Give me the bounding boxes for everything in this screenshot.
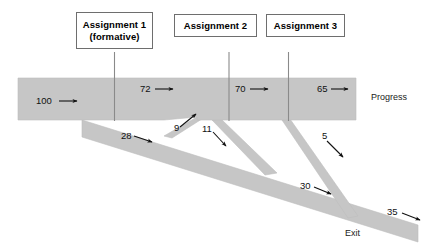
value-after-a2-70: 70: [235, 84, 246, 94]
value-intake-100: 100: [36, 96, 52, 106]
value-dropout-28: 28: [121, 131, 132, 141]
band-progress: [18, 78, 356, 120]
value-dropout-5: 5: [322, 131, 327, 141]
arrow-dropout-5: [327, 141, 343, 157]
value-after-a1-72: 72: [140, 84, 151, 94]
value-dropout-11: 11: [202, 124, 212, 134]
flow-bands: [0, 0, 430, 251]
assignment-2-box[interactable]: Assignment 2: [174, 14, 257, 37]
assignment-3-line1: Assignment 3: [274, 20, 338, 32]
arrow-exit-total-35: [402, 213, 420, 220]
band-exit-stream: [82, 120, 418, 242]
arrow-dropout-11: [213, 132, 226, 146]
value-exit-total-35: 35: [387, 207, 398, 217]
diagram-canvas: Assignment 1 (formative) Assignment 2 As…: [0, 0, 430, 251]
assignment-2-line1: Assignment 2: [184, 20, 248, 32]
exit-label: Exit: [345, 228, 360, 238]
assignment-1-line1: Assignment 1: [83, 19, 147, 31]
value-exit-mid-30: 30: [300, 181, 311, 191]
assignment-1-box[interactable]: Assignment 1 (formative): [76, 12, 153, 49]
value-rejoin-9: 9: [174, 123, 179, 133]
assignment-1-line2: (formative): [89, 31, 139, 43]
value-after-a3-65: 65: [317, 84, 328, 94]
assignment-3-box[interactable]: Assignment 3: [266, 14, 345, 37]
progress-label: Progress: [371, 92, 407, 102]
